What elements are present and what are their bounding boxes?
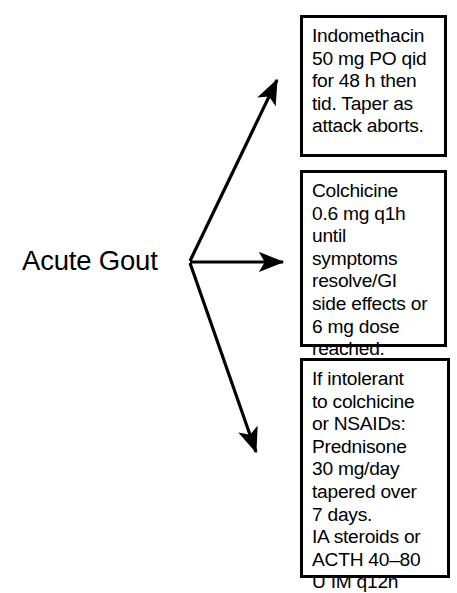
treatment-line: Colchicine (312, 180, 438, 203)
treatment-line: to colchicine (312, 391, 441, 414)
treatment-line: 0.6 mg q1h (312, 203, 438, 226)
treatment-line: or NSAIDs: (312, 413, 441, 436)
treatment-line: 7 days. (312, 504, 441, 527)
treatment-line: resolve/GI (312, 270, 438, 293)
treatment-box-indomethacin: Indomethacin 50 mg PO qid for 48 h then … (300, 15, 447, 157)
treatment-line: attack aborts. (312, 115, 438, 138)
treatment-line: until (312, 225, 438, 248)
treatment-line: 50 mg PO qid (312, 48, 438, 71)
treatment-box-steroids: If intolerant to colchicine or NSAIDs: P… (300, 358, 450, 578)
treatment-line: tapered over (312, 481, 441, 504)
root-node-label: Acute Gout (22, 247, 158, 276)
treatment-line: side effects or (312, 293, 438, 316)
treatment-line: Indomethacin (312, 25, 438, 48)
treatment-line: ACTH 40–80 (312, 549, 441, 572)
arrow-to-indomethacin (190, 80, 277, 261)
treatment-line: If intolerant (312, 368, 441, 391)
treatment-line: IA steroids or (312, 526, 441, 549)
treatment-box-colchicine: Colchicine 0.6 mg q1h until symptoms res… (300, 170, 447, 347)
treatment-line: tid. Taper as (312, 93, 438, 116)
treatment-line: Prednisone (312, 436, 441, 459)
root-node-acute-gout: Acute Gout (22, 241, 190, 281)
arrow-to-steroids (190, 263, 256, 452)
treatment-line: 30 mg/day (312, 458, 441, 481)
treatment-line: 6 mg dose (312, 316, 438, 339)
diagram-canvas: Acute Gout Indomethacin 50 mg PO qid for… (0, 0, 457, 593)
treatment-line: U IM q12h (312, 571, 441, 593)
treatment-line: symptoms (312, 248, 438, 271)
treatment-line: for 48 h then (312, 70, 438, 93)
